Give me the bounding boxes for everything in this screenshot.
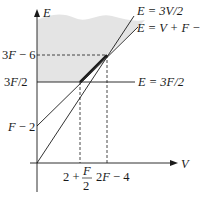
y-tick-3F-over-2: 3F/2 (4, 75, 28, 89)
x-tick-2F-4: 2F − 4 (96, 170, 130, 184)
y-tick-3F-6: 3F − 6 (2, 48, 35, 62)
x-axis-label: V (181, 157, 190, 171)
y-axis-arrow-icon (34, 9, 40, 17)
line-label-E-eq-V-plus-F-minus-2: E = V + F − 2 (136, 21, 203, 35)
line-label-E-eq-3V-over-2: E = 3V/2 (136, 4, 183, 18)
x-tick-frac-denominator: 2 (83, 179, 89, 193)
y-tick-F-2: F − 2 (7, 120, 35, 134)
y-axis-label: E (42, 6, 51, 20)
x-tick-frac-numerator: F (82, 164, 91, 178)
x-tick-2-plus-label: 2 + (63, 170, 79, 184)
feasible-region-diagram: E V 3F − 6 3F/2 F − 2 2 + F 2 2F − 4 E =… (0, 0, 203, 198)
x-axis-arrow-icon (170, 160, 178, 166)
line-label-E-eq-3F-over-2: E = 3F/2 (137, 75, 184, 89)
